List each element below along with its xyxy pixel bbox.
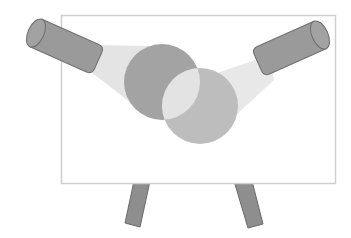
easel-legs (125, 181, 263, 228)
easel-leg-left (125, 181, 150, 227)
easel-leg-right (234, 181, 263, 228)
diagram-canvas (0, 0, 351, 238)
spotlight-easel-diagram (0, 0, 351, 238)
